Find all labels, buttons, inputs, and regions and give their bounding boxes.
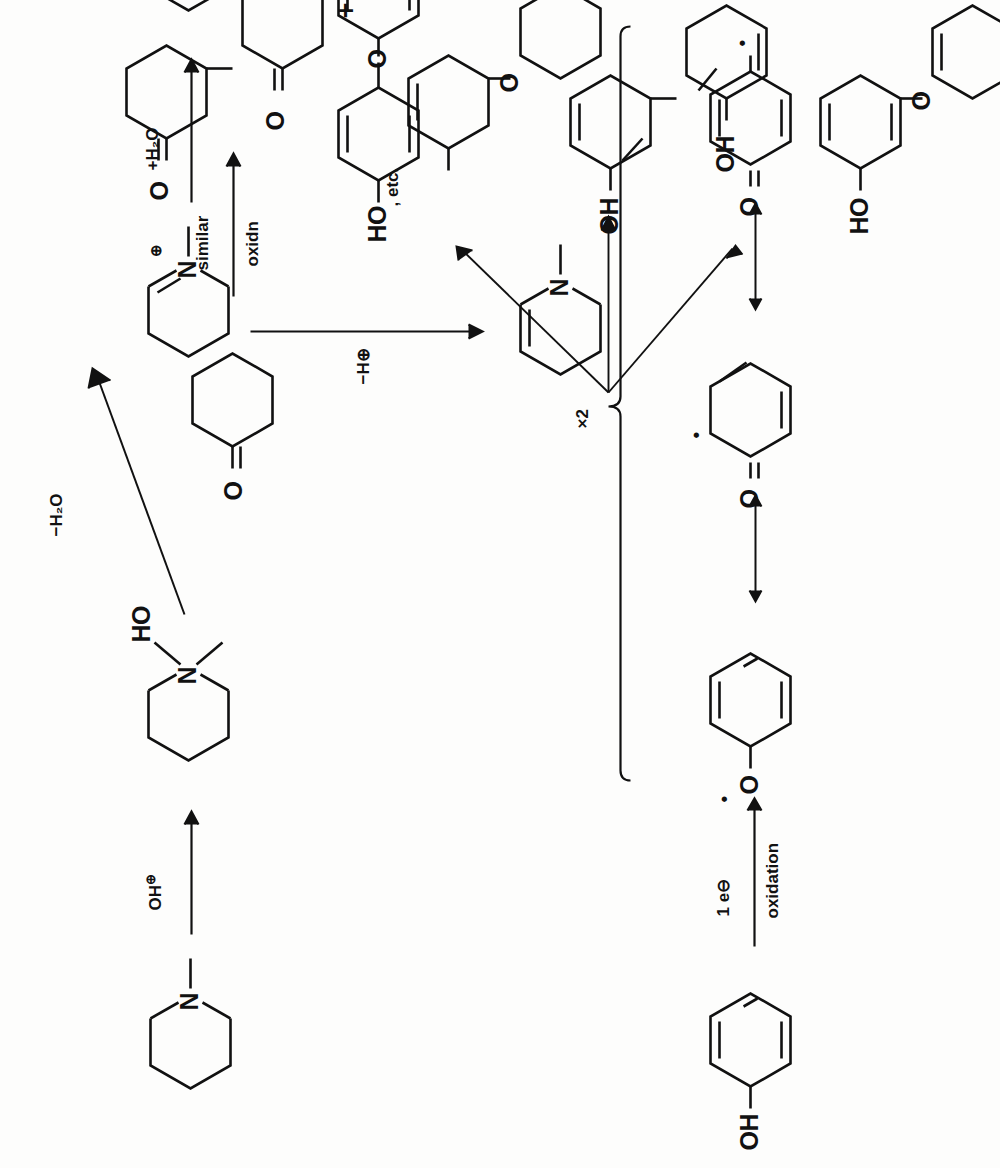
plus-sign: + [330,2,361,18]
p4-etc-label: , etc. [382,167,402,206]
label-minus-proton: −H⊕ [352,348,373,384]
piperidine-n-label: N [174,992,203,1010]
label-times-two: ×2 [572,409,592,428]
dienone-o-label-ortho: O [734,489,763,508]
label-minus-water: −H₂O [46,493,66,536]
label-plus-water: +H₂O [142,127,162,170]
structure-carbinolamine: N HO [128,0,248,32]
arrow-minus-proton [250,320,490,342]
radical-dot-oxygen: • [712,796,734,802]
piperidinium-n-label: N [172,666,201,684]
structure-phenol: OH [690,958,810,1108]
radical-dot-para: • [730,40,752,46]
structure-n-hydroxy-piperidinium: N HO [128,622,258,782]
arrow-hydroxyl-cation [180,804,202,934]
label-hydroxyl-cation: OH⊕ [142,874,166,911]
radical-o-label: O [734,775,763,794]
structure-phenoxyl-radical: O • [690,618,810,768]
structure-n-methylpiperidine: N [130,950,250,1110]
enamine-n-label: N [544,278,573,296]
iminium-charge: ⊕ [146,244,164,257]
label-oxidation: oxidation [762,842,782,918]
bicyclo-o-label-2: O [260,111,289,130]
p2-oh-label-bottom: OH [710,136,739,173]
bicyclo-o-label-1: O [144,181,173,200]
structure-enamine: N [500,226,620,396]
arrow-plus-water [180,52,202,202]
p3-o-label: O [906,91,935,110]
structure-2-phenoxyphenol: HO O [810,0,1000,168]
p3-ho-label: HO [844,198,873,235]
radical-dot-ortho: • [684,432,706,438]
structure-enolether-cyclohexanone: O O , etc. [398,0,588,148]
p1-ho-label: HO [362,206,391,243]
enolether-o-link-label: O [494,73,523,92]
p1-o-label: O [362,49,391,68]
label-one-electron: 1 e⊖ [712,878,733,916]
cyclohexanone-o-label: O [218,481,247,500]
iminium-n-label: N [172,260,201,278]
arrow-minus-water [80,356,190,616]
structure-iminium-ion: N ⊕ [128,208,248,378]
phenol-oh-label: OH [734,1114,763,1151]
